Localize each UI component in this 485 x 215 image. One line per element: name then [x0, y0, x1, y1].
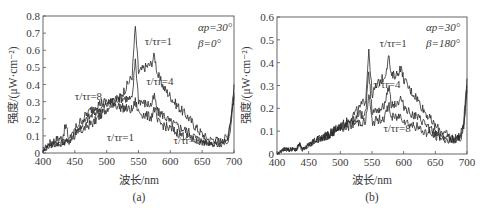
- curve-label: τ/τr=8: [174, 134, 202, 146]
- curve-label: τ/τr=1: [107, 131, 134, 143]
- y-tick-label: 0.3: [26, 96, 40, 108]
- spectrum-line-3: [277, 90, 467, 154]
- curve-label: τ/τr=8: [383, 122, 411, 134]
- x-tick-label: 450: [300, 156, 317, 168]
- y-tick-label: 0.6: [26, 44, 40, 56]
- x-tick-label: 550: [364, 156, 381, 168]
- y-tick-label: 0.1: [260, 125, 274, 137]
- y-tick-label: 0.1: [26, 130, 40, 142]
- panel-caption: (a): [133, 191, 146, 204]
- x-tick-label: 500: [98, 155, 115, 167]
- y-tick-label: 0.6: [260, 11, 274, 23]
- x-tick-label: 450: [67, 155, 84, 167]
- param-beta: β=180°: [425, 37, 460, 49]
- y-axis-label: 强度/(μW·cm⁻²): [239, 46, 253, 123]
- figure-canvas: 40045050055060065070000.10.20.30.40.50.6…: [0, 0, 485, 215]
- curve-label: τ/τr=4: [373, 78, 401, 90]
- x-tick-label: 700: [226, 155, 243, 167]
- param-beta: β=0°: [197, 37, 221, 49]
- y-tick-label: 0.4: [260, 57, 274, 69]
- y-tick-label: 0.5: [26, 61, 40, 73]
- x-tick-label: 650: [427, 156, 444, 168]
- spectrum-line-2: [277, 72, 467, 154]
- y-tick-label: 0.2: [260, 102, 274, 114]
- axis-ticks: 40045050055060065070000.10.20.30.40.50.6: [260, 11, 476, 168]
- x-tick-label: 700: [459, 156, 476, 168]
- y-tick-label: 0.5: [260, 34, 274, 46]
- y-tick-label: 0.4: [26, 79, 40, 91]
- y-tick-label: 0.2: [26, 113, 40, 125]
- param-alpha: αp=30°: [198, 21, 233, 33]
- param-alpha: αp=30°: [426, 21, 461, 33]
- curve-label: τ/τr=4: [146, 75, 174, 87]
- x-axis-label: 波长/nm: [119, 174, 159, 186]
- x-tick-label: 600: [162, 155, 179, 167]
- y-tick-label: 0: [269, 148, 275, 160]
- curve-label: τ/τr=1: [380, 37, 407, 49]
- spectral-curves: [277, 49, 467, 154]
- chart-panel-a: 40045050055060065070000.10.20.30.40.50.6…: [6, 10, 243, 204]
- x-tick-label: 600: [395, 156, 412, 168]
- spectrum-line-3: [43, 97, 234, 152]
- x-axis-label: 波长/nm: [352, 174, 392, 186]
- x-tick-label: 500: [332, 156, 349, 168]
- panel-caption: (b): [365, 191, 379, 204]
- y-tick-label: 0.8: [26, 10, 40, 22]
- y-tick-label: 0: [35, 147, 41, 159]
- y-tick-label: 0.7: [26, 27, 40, 39]
- y-tick-label: 0.3: [260, 80, 274, 92]
- curve-label: τ/τr=1: [145, 35, 172, 47]
- figure: 40045050055060065070000.10.20.30.40.50.6…: [0, 0, 485, 215]
- x-tick-label: 550: [130, 155, 147, 167]
- chart-panel-b: 40045050055060065070000.10.20.30.40.50.6…: [239, 11, 476, 204]
- spectrum-line-1: [277, 49, 467, 154]
- curve-label: τ/τr=8: [75, 90, 103, 102]
- y-axis-label: 强度/(μW·cm⁻²): [6, 46, 20, 123]
- x-tick-label: 650: [194, 155, 211, 167]
